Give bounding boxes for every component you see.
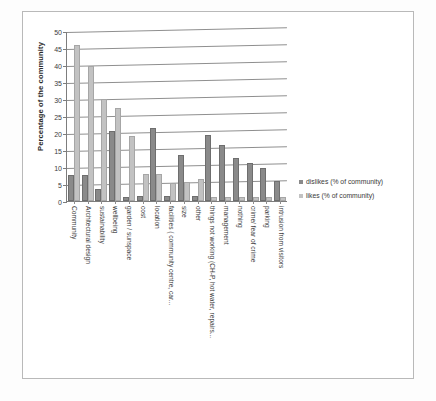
x-label-cell: crime/ fear of crime <box>247 206 261 326</box>
y-tick-label: 45 <box>54 46 62 53</box>
x-tick-mark <box>115 201 116 204</box>
bar-group <box>232 32 246 201</box>
x-axis-label: intrusion from visitors <box>278 206 285 268</box>
x-tick-mark <box>225 201 226 204</box>
bar-group <box>67 32 81 201</box>
x-axis-label: size <box>181 206 188 218</box>
x-tick-mark <box>253 201 254 204</box>
bar-group <box>177 32 191 201</box>
x-axis-label: sustainability <box>98 206 105 244</box>
y-tick-label: 10 <box>54 165 62 172</box>
y-tick-label: 30 <box>54 97 62 104</box>
x-axis-label: location <box>153 206 160 229</box>
x-axis-label: crime/ fear of crime <box>250 206 257 262</box>
x-tick-mark <box>211 201 212 204</box>
x-label-cell: wellbeing <box>108 206 122 326</box>
x-label-cell: nothing <box>233 206 247 326</box>
bar-group <box>191 32 205 201</box>
x-axis-label: Architectural design <box>84 206 91 264</box>
x-axis-label: facilities ( community centre, car... <box>167 206 174 305</box>
bar-group <box>81 32 95 201</box>
bar-group <box>246 32 260 201</box>
x-label-cell: garden / sunspace <box>122 206 136 326</box>
y-axis-title: Percentage of the community <box>36 17 45 177</box>
bar-group <box>95 32 109 201</box>
bar-group <box>108 32 122 201</box>
chart-legend: dislikes (% of community)likes (% of com… <box>299 178 429 206</box>
x-tick-mark <box>170 201 171 204</box>
x-label-cell: intrusion from visitors <box>274 206 288 326</box>
x-label-cell: sustainability <box>95 206 109 326</box>
x-axis-label: Community <box>70 206 77 239</box>
x-axis-label: nothing <box>236 206 243 228</box>
x-tick-mark <box>156 201 157 204</box>
bar-likes <box>184 182 190 201</box>
bar-group <box>150 32 164 201</box>
x-axis-labels: CommunityArchitectural designsustainabil… <box>67 206 288 326</box>
y-tick-label: 25 <box>54 114 62 121</box>
bar-group <box>163 32 177 201</box>
x-label-cell: facilities ( community centre, car... <box>164 206 178 326</box>
x-axis-label: things not working (CH-P, hot water, rep… <box>209 206 216 338</box>
bar-dislikes <box>233 158 239 201</box>
x-tick-mark <box>239 201 240 204</box>
bar-dislikes <box>205 135 211 201</box>
bar-group <box>260 32 274 201</box>
x-axis-label: management <box>222 206 229 245</box>
bar-groups <box>67 32 287 201</box>
bar-group <box>218 32 232 201</box>
legend-label: likes (% of community) <box>306 192 374 199</box>
x-tick-mark <box>88 201 89 204</box>
x-label-cell: things not working (CH-P, hot water, rep… <box>205 206 219 326</box>
bar-dislikes <box>247 163 253 201</box>
bar-dislikes <box>219 145 225 201</box>
bar-likes <box>129 136 135 201</box>
x-tick-mark <box>280 201 281 204</box>
y-tick-label: 40 <box>54 63 62 70</box>
x-label-cell: Architectural design <box>81 206 95 326</box>
plot-area: 05101520253035404550 <box>66 32 287 202</box>
bar-likes <box>170 183 176 201</box>
bar-likes <box>198 179 204 201</box>
legend-swatch-icon <box>299 180 303 184</box>
bar-chart: Percentage of the community 051015202530… <box>0 0 436 401</box>
y-tick-mark <box>63 202 67 203</box>
x-axis-label: other <box>195 206 202 221</box>
x-axis-label: garden / sunspace <box>126 206 133 260</box>
bar-likes <box>101 99 107 201</box>
y-tick-label: 15 <box>54 148 62 155</box>
x-tick-mark <box>266 201 267 204</box>
bar-group <box>122 32 136 201</box>
bar-group <box>273 32 287 201</box>
x-label-cell: other <box>191 206 205 326</box>
x-tick-mark <box>143 201 144 204</box>
legend-item[interactable]: likes (% of community) <box>299 192 429 199</box>
y-tick-label: 5 <box>58 182 62 189</box>
bar-likes <box>143 174 149 201</box>
bar-dislikes <box>260 168 266 201</box>
y-tick-label: 50 <box>54 29 62 36</box>
x-axis-line <box>66 201 287 202</box>
x-label-cell: location <box>150 206 164 326</box>
x-tick-mark <box>74 201 75 204</box>
chart-page: Percentage of the community 051015202530… <box>0 0 436 401</box>
y-tick-label: 20 <box>54 131 62 138</box>
x-tick-mark <box>101 201 102 204</box>
x-tick-mark <box>129 201 130 204</box>
y-tick-label: 35 <box>54 80 62 87</box>
x-label-cell: parking <box>260 206 274 326</box>
bar-likes <box>74 45 80 201</box>
bar-group <box>136 32 150 201</box>
bar-likes <box>115 108 121 201</box>
x-axis-label: parking <box>264 206 271 228</box>
x-tick-mark <box>198 201 199 204</box>
legend-item[interactable]: dislikes (% of community) <box>299 178 429 185</box>
x-label-cell: Community <box>67 206 81 326</box>
bar-likes <box>156 174 162 201</box>
x-label-cell: cost <box>136 206 150 326</box>
legend-swatch-icon <box>299 194 303 198</box>
x-axis-label: wellbeing <box>112 206 119 234</box>
bar-likes <box>88 66 94 202</box>
x-tick-mark <box>184 201 185 204</box>
bar-group <box>205 32 219 201</box>
